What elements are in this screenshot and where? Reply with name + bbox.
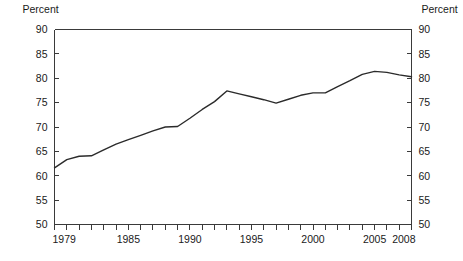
x-tick-label-1990: 1990 (178, 233, 202, 245)
y-tick-label-left-65: 65 (36, 145, 48, 157)
y-tick-label-right-70: 70 (419, 121, 431, 133)
data-series-line (55, 71, 412, 168)
x-tick-label-2000: 2000 (301, 233, 325, 245)
y-tick-label-right-65: 65 (419, 145, 431, 157)
right-axis-unit-label: Percent (422, 3, 458, 15)
y-tick-label-right-75: 75 (419, 96, 431, 108)
y-tick-label-left-75: 75 (36, 96, 48, 108)
x-tick-label-2008: 2008 (392, 233, 416, 245)
y-tick-label-right-55: 55 (419, 194, 431, 206)
line-chart: PercentPercent50505555606065657070757580… (0, 0, 463, 261)
chart-container: PercentPercent50505555606065657070757580… (0, 0, 463, 261)
x-tick-label-1979: 1979 (53, 233, 77, 245)
y-tick-label-right-90: 90 (419, 23, 431, 35)
y-tick-label-left-50: 50 (36, 218, 48, 230)
y-tick-label-right-80: 80 (419, 72, 431, 84)
y-tick-label-left-85: 85 (36, 48, 48, 60)
y-tick-label-right-60: 60 (419, 170, 431, 182)
y-tick-label-left-80: 80 (36, 72, 48, 84)
y-tick-label-left-90: 90 (36, 23, 48, 35)
y-tick-label-right-50: 50 (419, 218, 431, 230)
left-axis-unit-label: Percent (23, 3, 59, 15)
y-tick-label-left-70: 70 (36, 121, 48, 133)
x-tick-label-1995: 1995 (240, 233, 264, 245)
x-tick-label-1985: 1985 (117, 233, 141, 245)
x-tick-label-2005: 2005 (363, 233, 387, 245)
y-tick-label-right-85: 85 (419, 48, 431, 60)
y-tick-label-left-60: 60 (36, 170, 48, 182)
y-tick-label-left-55: 55 (36, 194, 48, 206)
